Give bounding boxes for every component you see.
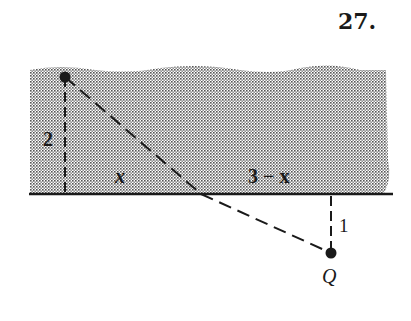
label-vertical-right: 1 bbox=[339, 215, 349, 236]
label-segment-left: x bbox=[114, 165, 125, 187]
path-dashed-segment-2 bbox=[201, 194, 331, 253]
point-q bbox=[326, 248, 337, 259]
label-vertical-left: 2 bbox=[43, 128, 53, 150]
point-p bbox=[60, 72, 71, 83]
label-segment-right: 3 − x bbox=[248, 165, 289, 187]
geometry-diagram: 2 x 3 − x 1 Q bbox=[0, 0, 411, 321]
label-point-q: Q bbox=[322, 265, 337, 287]
shaded-region bbox=[30, 65, 389, 193]
